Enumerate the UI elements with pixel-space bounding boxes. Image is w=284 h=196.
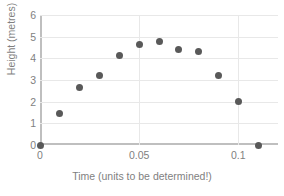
gridline-vertical [139, 15, 140, 145]
x-axis-tick-label: 0 [37, 149, 43, 161]
data-point [136, 41, 143, 48]
y-axis-tick-labels: 0123456 [22, 8, 36, 148]
y-axis-tick-label: 5 [22, 32, 36, 42]
data-point [195, 48, 202, 55]
x-axis-title: Time (units to be determined!) [0, 170, 284, 182]
gridline-horizontal [40, 102, 278, 103]
y-axis-tick-label: 3 [22, 75, 36, 85]
data-point [215, 72, 222, 79]
data-point [96, 72, 103, 79]
x-axis-tick-label: 0.1 [231, 149, 246, 161]
y-axis-tick-label: 4 [22, 53, 36, 63]
y-axis-tick-label: 1 [22, 118, 36, 128]
data-point [116, 52, 123, 59]
data-point [76, 84, 83, 91]
data-point [156, 38, 163, 45]
x-axis-tick-labels: 00.050.1 [40, 149, 278, 163]
gridline-horizontal [40, 80, 278, 81]
y-axis-tick-label: 6 [22, 10, 36, 20]
scatter-chart: Height (metres) 0123456 00.050.1 Time (u… [0, 0, 284, 196]
gridline-horizontal [40, 123, 278, 124]
plot-area [40, 15, 278, 145]
data-point [37, 142, 44, 149]
gridline-horizontal [40, 58, 278, 59]
y-axis-tick-label: 0 [22, 140, 36, 150]
data-point [56, 110, 63, 117]
data-point [255, 142, 262, 149]
x-axis-line [40, 143, 278, 145]
y-axis-title: Height (metres) [5, 0, 19, 95]
gridline-vertical [238, 15, 239, 145]
y-axis-tick-label: 2 [22, 97, 36, 107]
data-point [175, 46, 182, 53]
x-axis-tick-label: 0.05 [129, 149, 149, 161]
data-point [235, 98, 242, 105]
gridline-horizontal [40, 15, 278, 16]
